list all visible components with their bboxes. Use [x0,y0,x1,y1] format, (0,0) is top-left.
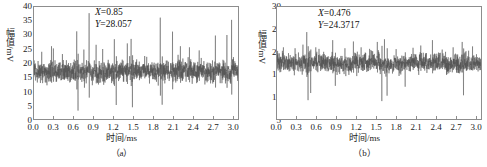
y-tick-label: 10 [23,88,32,97]
x-tick-mark [436,116,437,120]
y-tick-label: 15 [23,73,32,82]
x-tick-label: 1.2 [107,122,118,132]
x-axis-label-b: 时间/ms [243,133,486,144]
x-tick-label: 1.2 [350,122,361,132]
annotation-b: X=0.476 Y=24.3717 [318,8,360,31]
annotation-x-value: =0.476 [324,8,351,18]
y-tick-label: 30 [23,30,32,39]
x-tick-label: 2.1 [410,122,421,132]
x-tick-mark [153,116,154,120]
x-tick-label: 1.8 [147,122,158,132]
x-tick-mark [193,116,194,120]
x-tick-label: 3.0 [470,122,481,132]
figure-container: 幅值/mV 40 35 30 25 20 15 10 5 0 X=0.85 Y=… [0,0,487,167]
x-tick-label: 0.3 [290,122,301,132]
x-tick-label: 2.7 [207,122,218,132]
y-tick-label: 40 [23,2,32,11]
annotation-y-value: =24.3717 [323,20,359,30]
annotation-y-value: =28.057 [100,19,131,29]
x-tick-mark [396,116,397,120]
x-axis-label-a: 时间/ms [0,133,243,144]
x-tick-label: 0.9 [330,122,341,132]
y-tick-label: 25 [23,45,32,54]
x-tick-mark [93,116,94,120]
signal-trace-b [277,7,481,119]
plot-area-a [33,6,239,120]
x-tick-mark [213,116,214,120]
x-tick-mark [316,116,317,120]
x-tick-mark [296,116,297,120]
y-tick-label: 20 [23,59,32,68]
x-tick-label: 0.6 [310,122,321,132]
x-tick-label: 0.0 [27,122,38,132]
x-tick-mark [416,116,417,120]
x-tick-mark [233,116,234,120]
x-tick-label: 2.4 [187,122,198,132]
x-tick-label: 2.1 [167,122,178,132]
x-tick-mark [33,116,34,120]
annotation-x-value: =0.85 [101,7,123,17]
x-tick-mark [376,116,377,120]
y-tick-label: 35 [23,16,32,25]
x-tick-mark [456,116,457,120]
x-tick-label: 2.4 [430,122,441,132]
x-tick-label: 0.0 [270,122,281,132]
x-tick-mark [113,116,114,120]
x-tick-mark [133,116,134,120]
x-tick-label: 0.9 [87,122,98,132]
x-tick-mark [53,116,54,120]
x-tick-label: 0.3 [47,122,58,132]
y-tick-label: 5 [28,102,33,111]
x-tick-mark [476,116,477,120]
x-tick-label: 1.5 [370,122,381,132]
panel-caption-a: （a） [0,148,243,159]
panel-caption-b: （b） [243,148,486,159]
signal-trace-a [34,7,238,119]
x-tick-label: 0.6 [67,122,78,132]
annotation-a: X=0.85 Y=28.057 [95,7,132,30]
x-tick-label: 1.5 [127,122,138,132]
x-tick-label: 2.7 [450,122,461,132]
x-tick-label: 1.8 [390,122,401,132]
x-tick-mark [356,116,357,120]
x-tick-mark [276,116,277,120]
y-axis-label-a: 幅值/mV [1,28,15,62]
panel-b: 幅值/mV 30 25 20 15 10 5 X=0.476 Y=24.3717 [243,0,486,167]
x-tick-mark [173,116,174,120]
x-tick-label: 3.0 [227,122,238,132]
x-tick-mark [73,116,74,120]
panel-a: 幅值/mV 40 35 30 25 20 15 10 5 0 X=0.85 Y=… [0,0,243,167]
x-tick-mark [336,116,337,120]
plot-area-b [276,6,482,120]
